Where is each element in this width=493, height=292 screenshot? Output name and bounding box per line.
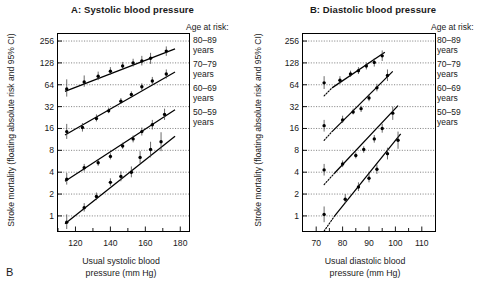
legend-entry-range: 80–89 <box>437 35 461 45</box>
panel-b-plot-area <box>302 33 436 232</box>
xtick-label-70: 70 <box>311 238 321 248</box>
fit-line <box>335 106 398 173</box>
legend-entry-range: 70–79 <box>193 59 217 69</box>
data-point-1 <box>81 126 84 129</box>
legend-entry-range: 60–69 <box>437 83 461 93</box>
panel-b-y-tick-labels: 1248163264128256 <box>267 33 299 232</box>
data-point-2 <box>357 185 360 188</box>
data-point-1 <box>344 197 347 200</box>
panel-diastolic: B: Diastolic blood pressure Stroke morta… <box>247 0 493 292</box>
fit-line <box>65 49 175 91</box>
legend-entry-unit: years <box>437 93 461 103</box>
ytick-label-1: 1 <box>49 211 54 221</box>
data-point-2 <box>95 195 98 198</box>
legend-entry-range: 60–69 <box>193 83 217 93</box>
ytick-label-16: 16 <box>44 123 54 133</box>
data-point-0 <box>322 168 325 171</box>
legend-entry-1: 70–79years <box>437 59 461 80</box>
legend-entry-2: 60–69years <box>193 83 217 104</box>
data-point-3 <box>109 155 112 158</box>
data-point-0 <box>65 87 68 90</box>
ytick-label-4: 4 <box>49 167 54 177</box>
data-point-2 <box>96 74 99 77</box>
legend-entry-0: 80–89years <box>193 35 217 56</box>
ytick-label-8: 8 <box>49 145 54 155</box>
data-point-2 <box>354 154 357 157</box>
data-point-0 <box>65 130 68 133</box>
data-point-3 <box>107 109 110 112</box>
xtick-label-140: 140 <box>103 238 117 248</box>
data-point-5 <box>381 127 384 130</box>
panel-a-y-tick-labels: 1248163264128256 <box>22 33 54 232</box>
data-point-1 <box>83 206 86 209</box>
legend-entry-unit: years <box>193 69 217 79</box>
panel-a-y-axis-title: Stroke mortality (floating absolute risk… <box>6 8 22 252</box>
data-point-1 <box>341 162 344 165</box>
data-point-4 <box>375 168 378 171</box>
data-point-8 <box>163 113 166 116</box>
data-point-5 <box>373 61 376 64</box>
series-A-1 <box>65 69 175 138</box>
data-point-3 <box>109 70 112 73</box>
ytick-label-2: 2 <box>49 189 54 199</box>
xtick-label-180: 180 <box>173 238 187 248</box>
data-point-5 <box>386 152 389 155</box>
panel-b-plot-svg <box>303 34 435 231</box>
data-point-7 <box>149 57 152 60</box>
data-point-0 <box>65 178 68 181</box>
data-point-7 <box>151 79 154 82</box>
series-B-2 <box>322 106 398 185</box>
legend-entry-1: 70–79years <box>193 59 217 80</box>
legend-entry-3: 50–59years <box>193 107 217 128</box>
panel-b-title: B: Diastolic blood pressure <box>247 4 493 15</box>
ytick-label-256: 256 <box>285 36 299 46</box>
fit-line <box>65 136 175 223</box>
data-point-2 <box>95 117 98 120</box>
ytick-label-2: 2 <box>294 189 299 199</box>
data-point-6 <box>138 156 141 159</box>
legend-entry-2: 60–69years <box>437 83 461 104</box>
legend-entry-range: 50–59 <box>193 107 217 117</box>
data-point-5 <box>131 137 134 140</box>
panel-b-legend-heading: Age at risk: <box>431 22 474 32</box>
data-point-6 <box>386 74 389 77</box>
data-point-5 <box>130 171 133 174</box>
xtick-label-120: 120 <box>68 238 82 248</box>
legend-entry-unit: years <box>193 45 217 55</box>
legend-entry-range: 70–79 <box>437 59 461 69</box>
panel-a-x-axis-title-line2: pressure (mm Hg) <box>46 268 196 280</box>
data-point-0 <box>322 213 325 216</box>
data-point-4 <box>365 64 368 67</box>
data-point-6 <box>381 54 384 57</box>
figure-stroke-mortality-blood-pressure: A: Systolic blood pressure Stroke mortal… <box>0 0 493 292</box>
panel-a-legend: 80–89years70–79years60–69years50–59years <box>193 35 217 131</box>
data-point-4 <box>121 64 124 67</box>
data-point-1 <box>341 118 344 121</box>
data-point-1 <box>83 80 86 83</box>
series-A-0 <box>65 46 175 96</box>
data-point-6 <box>396 139 399 142</box>
series-A-2 <box>65 109 175 185</box>
panel-a-x-axis-title-line1: Usual systolic blood <box>46 256 196 268</box>
legend-entry-range: 50–59 <box>437 107 461 117</box>
data-point-1 <box>338 78 341 81</box>
legend-entry-unit: years <box>437 117 461 127</box>
ytick-label-4: 4 <box>294 167 299 177</box>
xtick-label-110: 110 <box>415 238 429 248</box>
fit-line <box>335 134 401 216</box>
legend-entry-unit: years <box>193 117 217 127</box>
panel-systolic: A: Systolic blood pressure Stroke mortal… <box>0 0 247 292</box>
data-point-3 <box>367 177 370 180</box>
data-point-0 <box>65 220 68 223</box>
data-point-4 <box>121 144 124 147</box>
figure-corner-label: B <box>6 266 13 278</box>
ytick-label-64: 64 <box>44 80 54 90</box>
panel-a-plot-svg <box>58 34 189 231</box>
fit-line <box>65 110 175 182</box>
ytick-label-8: 8 <box>294 145 299 155</box>
data-point-8 <box>159 140 162 143</box>
panel-a-title: A: Systolic blood pressure <box>0 4 247 15</box>
ytick-label-16: 16 <box>289 123 299 133</box>
data-point-7 <box>151 123 154 126</box>
legend-entry-unit: years <box>437 69 461 79</box>
